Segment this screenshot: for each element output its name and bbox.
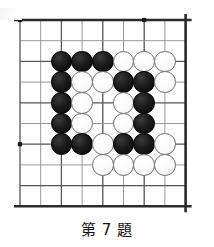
stone-white[interactable]	[113, 51, 135, 73]
go-problem-figure: 第 7 題	[0, 0, 214, 247]
figure-caption: 第 7 題	[0, 214, 214, 247]
stone-black[interactable]	[51, 51, 73, 73]
stone-black[interactable]	[92, 51, 114, 73]
stone-white[interactable]	[71, 71, 93, 93]
stone-white[interactable]	[133, 51, 155, 73]
stone-white[interactable]	[154, 51, 176, 73]
stone-black[interactable]	[133, 71, 155, 93]
stone-white[interactable]	[113, 154, 135, 176]
stone-black[interactable]	[71, 133, 93, 155]
stone-black[interactable]	[71, 51, 93, 73]
stone-white[interactable]	[154, 71, 176, 93]
stone-white[interactable]	[133, 154, 155, 176]
stone-black[interactable]	[133, 133, 155, 155]
go-board[interactable]	[0, 0, 214, 214]
caption-number: 7	[102, 223, 113, 238]
stone-white[interactable]	[92, 133, 114, 155]
caption-suffix: 題	[117, 223, 133, 238]
stone-black[interactable]	[133, 113, 155, 135]
stone-white[interactable]	[113, 113, 135, 135]
stone-black[interactable]	[113, 133, 135, 155]
stone-black[interactable]	[51, 113, 73, 135]
stone-black[interactable]	[51, 133, 73, 155]
stone-white[interactable]	[71, 113, 93, 135]
stone-black[interactable]	[133, 92, 155, 114]
stone-white[interactable]	[92, 154, 114, 176]
caption-prefix: 第	[81, 223, 97, 238]
stone-white[interactable]	[154, 154, 176, 176]
stones-layer	[0, 0, 214, 214]
stone-white[interactable]	[154, 133, 176, 155]
stone-black[interactable]	[51, 71, 73, 93]
stone-white[interactable]	[92, 71, 114, 93]
stone-black[interactable]	[113, 71, 135, 93]
stone-white[interactable]	[71, 92, 93, 114]
stone-black[interactable]	[51, 92, 73, 114]
stone-white[interactable]	[113, 92, 135, 114]
